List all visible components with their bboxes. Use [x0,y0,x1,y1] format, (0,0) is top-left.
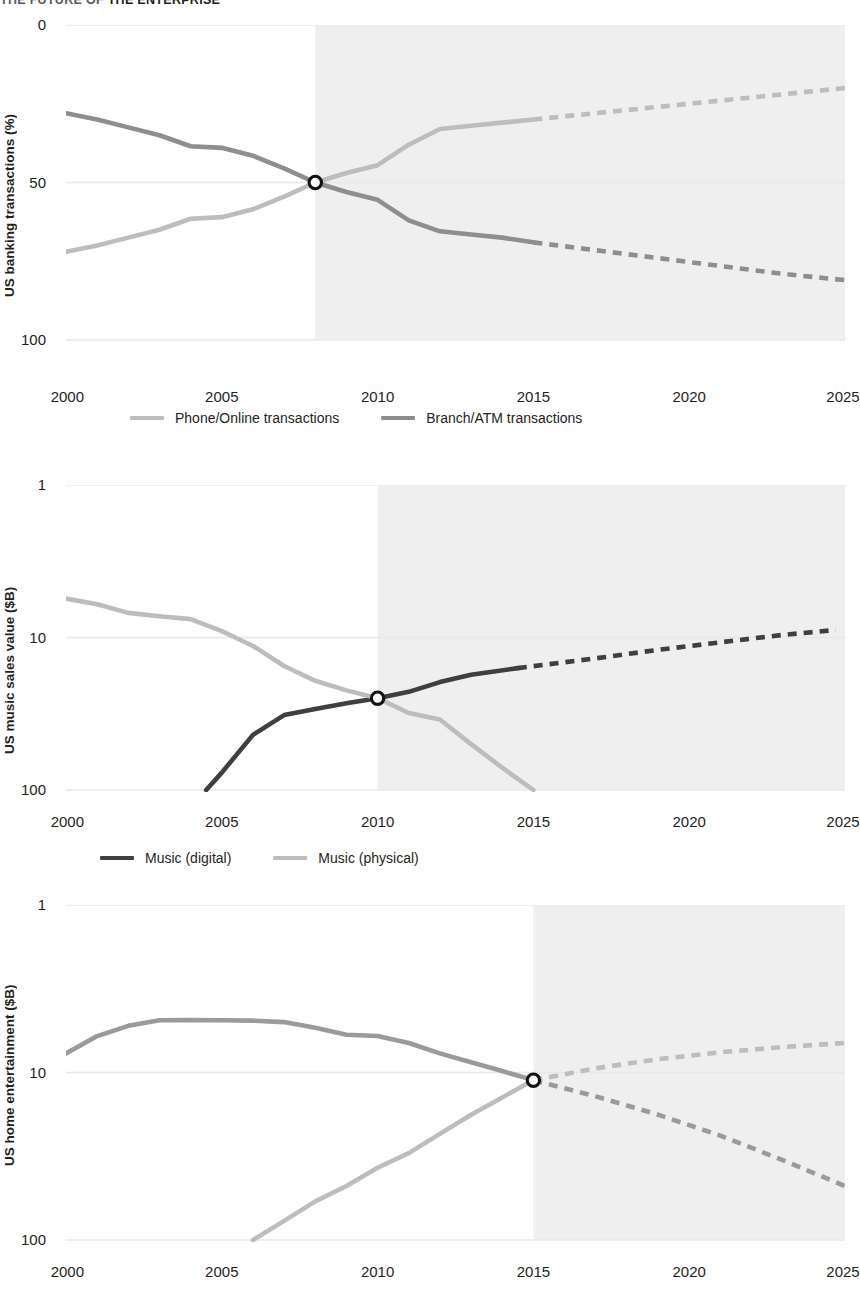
x-axis-tick-label: 2005 [205,1263,238,1280]
y-axis-tick-label: 1 [38,896,46,913]
chart-legend-banking: Phone/Online transactionsBranch/ATM tran… [130,410,624,426]
x-axis-tick-label: 2020 [673,813,706,830]
y-axis-tick-label: 0 [38,16,46,33]
x-axis-tick-label: 2000 [51,1263,84,1280]
kicker-strong: THE ENTERPRISE [108,0,221,7]
x-axis-tick-label: 2015 [517,1263,550,1280]
legend-item[interactable]: Phone/Online transactions [130,410,339,426]
y-axis-tick-label: 10 [29,629,46,646]
chart-svg-banking [66,25,845,342]
chart-svg-home-entertainment [66,905,845,1242]
x-axis-tick-label: 2000 [51,813,84,830]
x-axis-tick-label: 2025 [826,813,859,830]
chart-legend-music: Music (digital)Music (physical) [100,850,461,866]
legend-swatch [273,856,307,860]
legend-item[interactable]: Music (digital) [100,850,231,866]
x-axis-tick-label: 2015 [517,813,550,830]
legend-label: Music (digital) [145,850,231,866]
legend-item[interactable]: Music (physical) [273,850,418,866]
y-axis-tick-label: 100 [21,781,46,798]
y-axis-label: US home entertainment ($B) [2,915,17,1235]
y-axis-tick-label: 50 [29,174,46,191]
x-axis-tick-label: 2025 [826,1263,859,1280]
x-axis-tick-label: 2010 [361,813,394,830]
legend-swatch [100,856,134,860]
crossover-marker [527,1074,539,1086]
chart-panel-banking: US banking transactions (%) Phone/Online… [0,25,845,465]
crossover-marker [371,692,383,704]
legend-label: Music (physical) [318,850,418,866]
kicker-prefix: THE FUTURE OF [0,0,108,7]
y-axis-label: US banking transactions (%) [2,60,17,350]
x-axis-tick-label: 2020 [673,388,706,405]
x-axis-tick-label: 2010 [361,1263,394,1280]
x-axis-tick-label: 2010 [361,388,394,405]
plot-area-music [66,485,845,792]
chart-panel-home-entertainment: US home entertainment ($B) 1001012000200… [0,905,845,1302]
crossover-marker [309,176,321,188]
legend-swatch [130,416,164,420]
y-axis-tick-label: 100 [21,331,46,348]
legend-item[interactable]: Branch/ATM transactions [381,410,582,426]
y-axis-label: US music sales value ($B) [2,520,17,820]
chart-panel-music: US music sales value ($B) Music (digital… [0,485,845,885]
chart-svg-music [66,485,845,792]
y-axis-tick-label: 1 [38,476,46,493]
x-axis-tick-label: 2015 [517,388,550,405]
x-axis-tick-label: 2000 [51,388,84,405]
x-axis-tick-label: 2005 [205,388,238,405]
series-line-history [253,1080,533,1240]
y-axis-tick-label: 10 [29,1064,46,1081]
plot-area-banking [66,25,845,342]
legend-swatch [381,416,415,420]
y-axis-tick-label: 100 [21,1231,46,1248]
series-line-history [66,1020,533,1080]
legend-label: Phone/Online transactions [175,410,339,426]
page-kicker: THE FUTURE OF THE ENTERPRISE [0,0,600,9]
plot-area-home-entertainment [66,905,845,1242]
x-axis-tick-label: 2020 [673,1263,706,1280]
x-axis-tick-label: 2025 [826,388,859,405]
legend-label: Branch/ATM transactions [426,410,582,426]
x-axis-tick-label: 2005 [205,813,238,830]
